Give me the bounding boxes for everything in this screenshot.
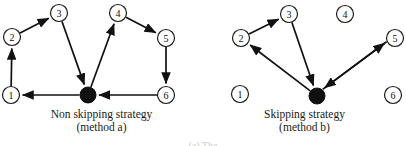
node-label-non-skipping-6: 6 [164,90,169,101]
node-label-skipping-2: 2 [239,33,244,44]
node-label-non-skipping-5: 5 [164,33,169,44]
node-label-skipping-6: 6 [391,90,396,101]
node-skipping-4: 4 [337,6,354,23]
edges-layer [11,17,386,95]
caption-skipping-line2: (method b) [203,121,406,134]
node-skipping-3: 3 [281,6,298,23]
edge-skipping-2-to-3 [249,19,279,34]
edge-non-skipping-3-to-hub [62,21,84,84]
node-label-non-skipping-2: 2 [10,32,15,43]
node-label-non-skipping-1: 1 [9,90,14,101]
hub-node-skipping [309,88,325,104]
node-label-skipping-5: 5 [393,33,398,44]
nodes-layer: 123456123456 [3,5,404,105]
edge-skipping-5-to-hub [325,42,387,88]
caption-non-skipping: Non skipping strategy (method a) [0,108,203,133]
node-skipping-5: 5 [387,30,404,47]
node-label-non-skipping-4: 4 [116,8,121,19]
caption-skipping: Skipping strategy (method b) [203,108,406,133]
caption-skipping-line1: Skipping strategy [264,108,345,120]
caption-non-skipping-line1: Non skipping strategy [51,108,153,120]
node-non-skipping-1: 1 [3,87,20,104]
node-skipping-6: 6 [385,87,402,104]
node-non-skipping-5: 5 [158,30,175,47]
node-label-non-skipping-3: 3 [57,8,62,19]
node-skipping-1: 1 [232,86,249,103]
edge-non-skipping-hub-to-4 [91,24,114,87]
hub-node-non-skipping [80,87,96,103]
edge-skipping-3-to-hub [292,23,314,86]
node-non-skipping-6: 6 [158,87,175,104]
caption-non-skipping-line2: (method a) [0,121,203,134]
node-skipping-2: 2 [233,30,250,47]
edge-non-skipping-1-to-2 [11,49,12,87]
node-non-skipping-2: 2 [4,29,21,46]
node-label-skipping-3: 3 [287,9,292,20]
figure-container: 123456123456 Non skipping strategy (meth… [0,0,406,146]
node-label-skipping-4: 4 [343,9,348,20]
cropped-figure-label: (a) The [0,140,406,146]
node-non-skipping-4: 4 [110,5,127,22]
edge-non-skipping-4-to-5 [126,17,156,33]
node-non-skipping-3: 3 [51,5,68,22]
edge-non-skipping-2-to-3 [20,18,49,33]
node-label-skipping-1: 1 [238,89,243,100]
